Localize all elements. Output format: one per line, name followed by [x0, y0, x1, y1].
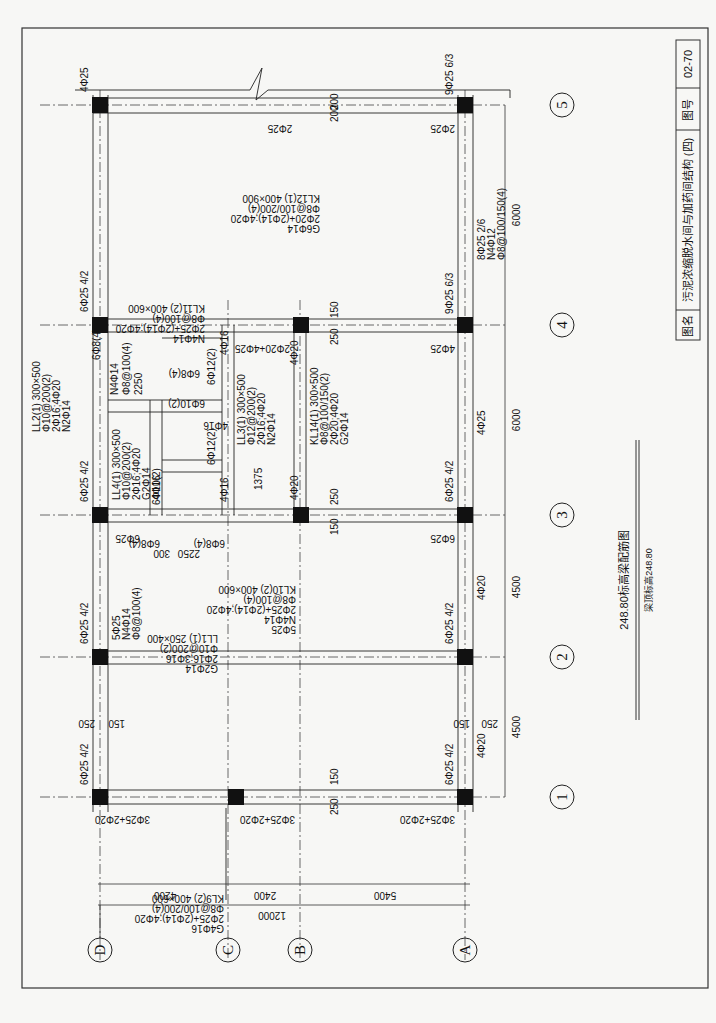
svg-text:Φ8@100/200(4): Φ8@100/200(4) [248, 203, 320, 214]
svg-text:250: 250 [78, 718, 95, 729]
svg-text:150: 150 [453, 718, 470, 729]
svg-text:N4Φ14: N4Φ14 [173, 333, 205, 344]
svg-text:300: 300 [153, 548, 170, 559]
beam-D-span-label: 5Φ25 N4Φ14 Φ8@100(4) [111, 587, 142, 640]
svg-text:G2Φ14: G2Φ14 [339, 412, 350, 445]
svg-text:4Φ16: 4Φ16 [219, 330, 230, 355]
beam-KL12-label: KL12(1) 400×900 Φ8@100/200(4) 2Φ20+(2Φ14… [230, 193, 320, 234]
svg-text:6Φ10(2): 6Φ10(2) [151, 468, 162, 505]
axis-3: 3 [554, 511, 570, 519]
title-block: 02-70 图号 污泥浓缩脱水间与加药间结构 (四) 图名 [676, 40, 700, 340]
svg-text:6Φ25 4/2: 6Φ25 4/2 [444, 460, 455, 502]
svg-text:N2Φ14: N2Φ14 [61, 400, 72, 432]
axis-2: 2 [554, 653, 570, 661]
svg-text:KL12(1) 400×900: KL12(1) 400×900 [242, 193, 320, 204]
svg-text:5Φ25: 5Φ25 [271, 624, 296, 635]
svg-text:6Φ25 4/2: 6Φ25 4/2 [444, 743, 455, 785]
svg-text:Φ8@100/150(4): Φ8@100/150(4) [496, 188, 507, 260]
axis-D: D [92, 944, 108, 955]
A-axis-beam-label: 8Φ25 2/6 N4Φ12 Φ8@100/150(4) [476, 188, 507, 260]
rebar-labels-D: 4Φ25 6Φ25 4/2 6Φ25 4/2 6Φ25 4/2 6Φ25 4/2 [79, 67, 90, 785]
beam-LL1-label: LL1(1) 250×400 Φ10@200(2) 2Φ16;3Φ16 G2Φ1… [147, 633, 218, 674]
beam-KL9-label: KL9(2) 400×600 Φ8@100/200(4) 2Φ25+(2Φ14)… [134, 893, 224, 934]
svg-text:3Φ25+2Φ20: 3Φ25+2Φ20 [239, 814, 295, 825]
svg-text:9Φ25 6/3: 9Φ25 6/3 [444, 53, 455, 95]
axis-5: 5 [554, 101, 570, 109]
svg-text:2Φ25+(2Φ14);4Φ20: 2Φ25+(2Φ14);4Φ20 [115, 323, 205, 334]
svg-text:6Φ8(4): 6Φ8(4) [129, 538, 160, 549]
svg-text:2Φ25+(2Φ14);4Φ20: 2Φ25+(2Φ14);4Φ20 [206, 604, 296, 615]
beam-LL3-label: LL3(1) 300×500 Φ12@200(2) 2Φ16;4Φ20 N2Φ1… [236, 374, 277, 445]
svg-text:Φ8@100(4): Φ8@100(4) [131, 587, 142, 640]
axis-C: C [220, 945, 236, 955]
svg-text:4Φ20: 4Φ20 [476, 733, 487, 758]
axis-4: 4 [554, 321, 570, 329]
svg-text:250: 250 [329, 328, 340, 345]
svg-text:N4Φ14: N4Φ14 [109, 363, 120, 395]
svg-text:9Φ25 6/3: 9Φ25 6/3 [444, 272, 455, 314]
rebar-labels-A: 9Φ25 6/3 9Φ25 6/3 6Φ25 4/2 6Φ25 4/2 6Φ25… [444, 53, 507, 785]
svg-text:G6Φ14: G6Φ14 [287, 223, 320, 234]
svg-text:2Φ20+4Φ25: 2Φ20+4Φ25 [234, 343, 290, 354]
sheet-frame [22, 28, 708, 988]
svg-text:6Φ25 4/2: 6Φ25 4/2 [444, 602, 455, 644]
axis-bubbles-numbers: 1 2 3 4 5 [550, 93, 574, 809]
svg-text:4Φ25: 4Φ25 [430, 343, 455, 354]
svg-text:2250: 2250 [177, 548, 200, 559]
svg-text:4500: 4500 [511, 715, 522, 738]
svg-text:Φ8@100(4): Φ8@100(4) [121, 342, 132, 395]
svg-text:4Φ25: 4Φ25 [476, 410, 487, 435]
beam-KL10-label: KL10(2) 400×600 Φ8@100(4) 2Φ25+(2Φ14);4Φ… [206, 584, 296, 635]
svg-text:2Φ20+(2Φ14);4Φ20: 2Φ20+(2Φ14);4Φ20 [230, 213, 320, 224]
drawing-name: 污泥浓缩脱水间与加药间结构 (四) [681, 138, 694, 302]
svg-text:250: 250 [481, 718, 498, 729]
structural-plan: 02-70 图号 污泥浓缩脱水间与加药间结构 (四) 图名 248.80标高梁配… [0, 0, 716, 1023]
svg-text:2250: 2250 [133, 372, 144, 395]
svg-text:6Φ10(2): 6Φ10(2) [168, 398, 205, 409]
svg-text:4500: 4500 [511, 575, 522, 598]
svg-text:6Φ25: 6Φ25 [430, 533, 455, 544]
svg-text:6Φ12(2): 6Φ12(2) [206, 428, 217, 465]
svg-text:2Φ16;3Φ16: 2Φ16;3Φ16 [165, 653, 218, 664]
svg-text:4Φ20: 4Φ20 [289, 340, 300, 365]
svg-text:150: 150 [329, 301, 340, 318]
svg-text:3Φ25+2Φ20: 3Φ25+2Φ20 [94, 814, 150, 825]
svg-text:Φ8@100(4): Φ8@100(4) [152, 313, 205, 324]
svg-text:Φ10@200(2): Φ10@200(2) [160, 643, 218, 654]
drawing-caption: 248.80标高梁配筋图 梁顶标高248.80 [617, 440, 654, 720]
axis-B: B [292, 945, 308, 955]
svg-text:6Φ8(4): 6Φ8(4) [91, 329, 102, 360]
svg-text:N2Φ14: N2Φ14 [266, 413, 277, 445]
axis-1: 1 [554, 793, 570, 801]
svg-text:KL11(2) 400×600: KL11(2) 400×600 [128, 303, 205, 314]
svg-text:LL1(1) 250×400: LL1(1) 250×400 [147, 633, 218, 644]
svg-text:4Φ16: 4Φ16 [203, 420, 228, 431]
svg-text:6Φ25 4/2: 6Φ25 4/2 [79, 270, 90, 312]
drawing-number: 02-70 [682, 50, 694, 78]
axis-A: A [457, 944, 473, 955]
svg-text:4Φ25: 4Φ25 [79, 67, 90, 92]
svg-text:4Φ16: 4Φ16 [219, 477, 230, 502]
drawing-name-label: 图名 [681, 315, 694, 337]
svg-text:2Φ25: 2Φ25 [267, 123, 292, 134]
svg-text:5400: 5400 [373, 890, 396, 901]
svg-text:4Φ20: 4Φ20 [289, 475, 300, 500]
svg-text:6Φ8(4): 6Φ8(4) [169, 368, 200, 379]
svg-text:6000: 6000 [511, 408, 522, 431]
svg-text:2400: 2400 [253, 890, 276, 901]
svg-text:250: 250 [329, 488, 340, 505]
svg-text:6000: 6000 [511, 203, 522, 226]
svg-text:150: 150 [329, 518, 340, 535]
svg-text:2Φ25: 2Φ25 [430, 123, 455, 134]
svg-text:200: 200 [329, 93, 340, 110]
beam-LL2-label: LL2(1) 300×500 Φ10@200(2) 2Φ16;4Φ20 N2Φ1… [31, 361, 72, 432]
drawing-sheet: 02-70 图号 污泥浓缩脱水间与加药间结构 (四) 图名 248.80标高梁配… [0, 0, 716, 1023]
number-dimensions: 4500 4500 6000 6000 [511, 203, 522, 738]
caption-sub: 梁顶标高248.80 [643, 548, 654, 612]
svg-text:KL9(2) 400×600: KL9(2) 400×600 [152, 893, 224, 904]
svg-text:KL10(2) 400×600: KL10(2) 400×600 [218, 584, 296, 595]
svg-text:6Φ25 4/2: 6Φ25 4/2 [79, 743, 90, 785]
svg-text:2Φ25+(2Φ14);4Φ20: 2Φ25+(2Φ14);4Φ20 [134, 913, 224, 924]
svg-text:Φ8@100/200(4): Φ8@100/200(4) [152, 903, 224, 914]
beam-KL11-label: KL11(2) 400×600 Φ8@100(4) 2Φ25+(2Φ14);4Φ… [115, 303, 205, 344]
